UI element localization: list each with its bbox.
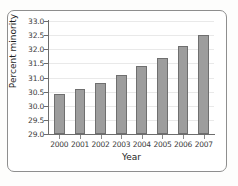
gridline — [49, 78, 214, 79]
x-axis-tick-mark — [80, 135, 81, 139]
x-axis-tick-label: 2003 — [112, 140, 130, 149]
x-axis-tick-mark — [183, 135, 184, 139]
gridline — [49, 21, 214, 22]
x-axis-tick-label: 2005 — [153, 140, 171, 149]
bar — [136, 66, 147, 134]
bar — [157, 58, 168, 134]
x-axis-tick-mark — [204, 135, 205, 139]
y-axis-tick-mark — [44, 92, 48, 93]
x-axis-tick-label: 2007 — [195, 140, 213, 149]
bar — [95, 83, 106, 134]
y-axis-tick-mark — [44, 35, 48, 36]
gridline — [49, 35, 214, 36]
x-axis-title: Year — [49, 152, 214, 162]
x-axis-tick-label: 2006 — [174, 140, 192, 149]
y-axis-tick-mark — [44, 134, 48, 135]
bar — [116, 75, 127, 134]
y-axis-tick-label: 29.5 — [2, 116, 44, 125]
y-axis-tick-mark — [44, 78, 48, 79]
y-axis-tick-mark — [44, 120, 48, 121]
bar — [75, 89, 86, 134]
y-axis-tick-mark — [44, 21, 48, 22]
x-axis-tick-label: 2001 — [71, 140, 89, 149]
y-axis-tick-labels: 29.029.530.030.531.031.532.032.533.0 — [0, 0, 44, 186]
gridline — [49, 49, 214, 50]
y-axis-line — [48, 20, 49, 135]
y-axis-tick-mark — [44, 49, 48, 50]
x-axis-tick-mark — [142, 135, 143, 139]
x-axis-tick-label: 2004 — [133, 140, 151, 149]
bar — [54, 94, 65, 134]
figure-canvas: 29.029.530.030.531.031.532.032.533.0 Per… — [0, 0, 238, 186]
x-axis-tick-label: 2002 — [92, 140, 110, 149]
y-axis-tick-mark — [44, 106, 48, 107]
y-axis-tick-mark — [44, 63, 48, 64]
plot-area — [49, 21, 214, 134]
x-axis-tick-mark — [121, 135, 122, 139]
x-axis-tick-mark — [101, 135, 102, 139]
x-axis-tick-mark — [162, 135, 163, 139]
bar — [178, 46, 189, 134]
bar — [198, 35, 209, 134]
x-axis-tick-label: 2000 — [50, 140, 68, 149]
y-axis-title: Percent minority — [8, 0, 18, 111]
gridline — [49, 63, 214, 64]
y-axis-tick-label: 29.0 — [2, 130, 44, 139]
x-axis-line — [48, 134, 215, 135]
x-axis-tick-mark — [59, 135, 60, 139]
